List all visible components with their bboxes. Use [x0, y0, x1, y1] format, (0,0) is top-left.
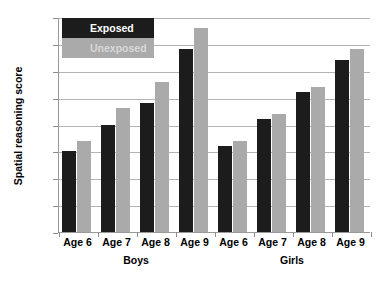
bar-exposed-age6[interactable]: [218, 146, 232, 232]
legend-item-exposed: Exposed: [62, 18, 154, 38]
bar-exposed-age7[interactable]: [101, 125, 115, 233]
bar-unexposed-age7[interactable]: [116, 108, 130, 232]
x-axis-labels: Age 6Age 7Age 8Age 9Age 6Age 7Age 8Age 9: [58, 236, 370, 252]
y-tick-mark-0: [53, 233, 58, 234]
bar-unexposed-age8[interactable]: [311, 87, 325, 232]
x-axis-label: Age 9: [328, 236, 374, 248]
y-tick-mark-20: [53, 126, 58, 127]
y-tick-mark-25: [53, 99, 58, 100]
bar-exposed-age9[interactable]: [179, 49, 193, 232]
legend-label-exposed: Exposed: [90, 22, 134, 34]
bar-group: [215, 18, 254, 232]
y-tick-mark-15: [53, 152, 58, 153]
x-axis-group-label: Boys: [91, 254, 181, 266]
bar-exposed-age8[interactable]: [296, 92, 310, 232]
bar-exposed-age8[interactable]: [140, 103, 154, 232]
y-tick-mark-30: [53, 72, 58, 73]
y-tick-mark-35: [53, 45, 58, 46]
bar-unexposed-age9[interactable]: [194, 28, 208, 232]
bar-exposed-age6[interactable]: [62, 151, 76, 232]
bar-group: [254, 18, 293, 232]
y-tick-mark-40: [53, 18, 58, 19]
bar-group: [332, 18, 371, 232]
x-axis-group-labels: BoysGirls: [58, 254, 370, 270]
legend-item-unexposed: Unexposed: [62, 38, 154, 58]
spatial-reasoning-bar-chart: Spatial reasoning score 0510152025303540…: [0, 0, 380, 286]
legend-label-unexposed: Unexposed: [90, 42, 147, 54]
bar-exposed-age7[interactable]: [257, 119, 271, 232]
x-axis-group-label: Girls: [247, 254, 337, 266]
bar-unexposed-age6[interactable]: [77, 141, 91, 232]
bar-exposed-age9[interactable]: [335, 60, 349, 232]
bar-unexposed-age9[interactable]: [350, 49, 364, 232]
bar-group: [176, 18, 215, 232]
y-tick-mark-5: [53, 206, 58, 207]
y-axis-title: Spatial reasoning score: [12, 16, 24, 236]
bar-group: [293, 18, 332, 232]
bar-unexposed-age6[interactable]: [233, 141, 247, 232]
bar-unexposed-age7[interactable]: [272, 114, 286, 232]
y-tick-mark-10: [53, 179, 58, 180]
legend: Exposed Unexposed: [62, 18, 154, 58]
bar-unexposed-age8[interactable]: [155, 82, 169, 233]
